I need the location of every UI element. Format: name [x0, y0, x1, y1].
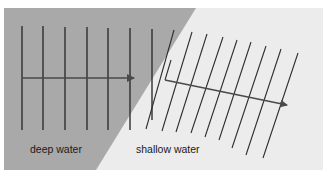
shallow-water-label: shallow water — [136, 143, 200, 155]
deep-water-label: deep water — [30, 143, 82, 155]
refraction-diagram: deep water shallow water — [0, 0, 327, 180]
